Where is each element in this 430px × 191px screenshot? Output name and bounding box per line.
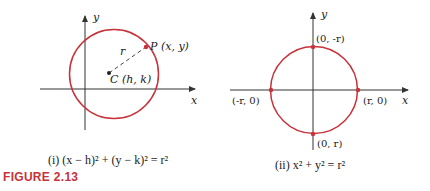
figure-canvas: x y r C (h, k) P (x, y) (i) (x − h)² + (…: [0, 0, 430, 191]
x-axis-label: x: [402, 94, 409, 107]
y-axis-label: y: [320, 8, 328, 21]
radius-line: [109, 47, 146, 73]
radius-label: r: [120, 45, 126, 58]
panel-i: x y r C (h, k) P (x, y) (i) (x − h)² + (…: [40, 11, 198, 167]
caption-ii: (ii) x² + y² = r²: [275, 158, 345, 172]
point-top-label: (0, -r): [316, 33, 345, 44]
point-top: [311, 45, 315, 49]
y-axis-label: y: [92, 11, 100, 24]
point-bottom-label: (0, r): [317, 138, 342, 149]
point-right-label: (r, 0): [363, 95, 387, 106]
point-left: [269, 88, 273, 92]
point-bottom: [311, 132, 315, 136]
point-left-label: (-r, 0): [232, 95, 260, 106]
x-axis-label: x: [191, 94, 198, 107]
panel-ii: x y (0, -r) (-r, 0) (r, 0) (0, r) (ii) x…: [230, 8, 409, 172]
figure-label: FIGURE 2.13: [3, 170, 78, 184]
caption-i: (i) (x − h)² + (y − k)² = r²: [48, 153, 169, 167]
point-right: [356, 88, 360, 92]
center-label: C (h, k): [110, 73, 151, 86]
point-p-label: P (x, y): [149, 40, 189, 53]
point-p: [144, 45, 148, 49]
